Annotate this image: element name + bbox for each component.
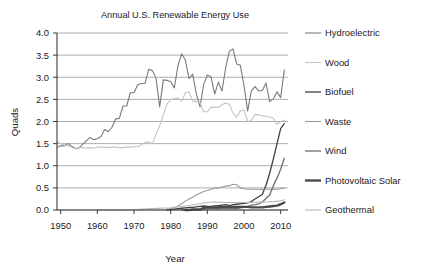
- chart-title: Annual U.S. Renewable Energy Use: [101, 10, 249, 20]
- y-tick-label: 0.0: [36, 204, 49, 215]
- x-tick-label: 2000: [234, 220, 255, 231]
- chart-svg: 0.00.51.01.52.02.53.03.54.0 195019601970…: [0, 0, 446, 275]
- legend-label: Wind: [325, 145, 346, 156]
- y-tick-label: 1.5: [36, 138, 49, 149]
- y-tick-label: 4.0: [36, 27, 49, 38]
- y-tick-label: 0.5: [36, 182, 49, 193]
- y-tick-label: 1.0: [36, 160, 49, 171]
- x-tick-label: 1970: [124, 220, 145, 231]
- x-axis-label: Year: [165, 253, 185, 264]
- chart-background: [0, 0, 446, 275]
- x-tick-label: 1950: [50, 220, 71, 231]
- legend-label: Waste: [325, 116, 351, 127]
- chart-figure: 0.00.51.01.52.02.53.03.54.0 195019601970…: [0, 0, 446, 275]
- legend-label: Hydroelectric: [325, 27, 380, 38]
- x-tick-label: 1980: [160, 220, 181, 231]
- y-tick-label: 2.0: [36, 116, 49, 127]
- y-tick-labels: 0.00.51.01.52.02.53.03.54.0: [36, 27, 49, 215]
- x-tick-label: 2010: [270, 220, 291, 231]
- y-tick-label: 3.0: [36, 72, 49, 83]
- legend-label: Photovoltaic Solar: [325, 175, 401, 186]
- legend-label: Wood: [325, 57, 349, 68]
- x-tick-label: 1960: [87, 220, 108, 231]
- legend-label: Biofuel: [325, 86, 354, 97]
- x-tick-label: 1990: [197, 220, 218, 231]
- y-tick-label: 2.5: [36, 94, 49, 105]
- y-tick-label: 3.5: [36, 50, 49, 61]
- legend-label: Geothermal: [325, 204, 374, 215]
- y-axis-label: Quads: [9, 108, 20, 136]
